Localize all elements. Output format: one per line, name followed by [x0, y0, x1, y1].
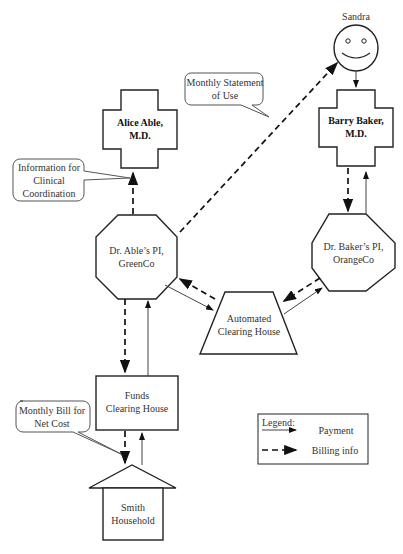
statement-line1: Monthly Statement	[185, 76, 265, 89]
funds-line2: Clearing House	[96, 402, 178, 415]
sandra-face-icon	[334, 25, 378, 71]
statement-callout-text: Monthly Statement of Use	[185, 76, 265, 102]
bill-line2: Net Cost	[14, 417, 90, 430]
ach-line2: Clearing House	[205, 325, 293, 338]
funds-node[interactable]: Funds Clearing House	[96, 389, 178, 415]
able-pi-line1: Dr. Able’s PI,	[96, 244, 177, 257]
alice-node[interactable]: Alice Able, M.D.	[103, 116, 177, 142]
bill-line1: Monthly Bill for	[14, 404, 90, 417]
smith-node[interactable]: Smith Household	[103, 501, 163, 527]
alice-name: Alice Able,	[103, 116, 177, 129]
smith-line2: Household	[103, 514, 163, 527]
alice-title: M.D.	[103, 129, 177, 142]
legend-title: Legend:	[262, 416, 312, 429]
smith-line1: Smith	[103, 501, 163, 514]
legend-payment-label: Payment	[306, 424, 366, 437]
ach-line1: Automated	[205, 312, 293, 325]
legend-billing-label: Billing info	[302, 444, 368, 457]
able-pi-line2: GreenCo	[96, 257, 177, 270]
barry-title: M.D.	[319, 127, 393, 140]
baker-pi-node[interactable]: Dr. Baker’s PI, OrangeCo	[312, 240, 395, 266]
able-pi-node[interactable]: Dr. Able’s PI, GreenCo	[96, 244, 177, 270]
bill-callout-text: Monthly Bill for Net Cost	[14, 404, 90, 430]
clinical-callout-text: Information for Clinical Coordination	[14, 161, 84, 200]
baker-pi-line2: OrangeCo	[312, 253, 395, 266]
clinical-line2: Clinical	[14, 174, 84, 187]
sandra-label: Sandra	[330, 10, 382, 23]
smith-house-roof	[89, 465, 176, 488]
baker-pi-line1: Dr. Baker’s PI,	[312, 240, 395, 253]
barry-node[interactable]: Barry Baker, M.D.	[319, 114, 393, 140]
statement-line2: of Use	[185, 89, 265, 102]
barry-name: Barry Baker,	[319, 114, 393, 127]
ach-node[interactable]: Automated Clearing House	[205, 312, 293, 338]
clinical-line3: Coordination	[14, 187, 84, 200]
funds-line1: Funds	[96, 389, 178, 402]
clinical-line1: Information for	[14, 161, 84, 174]
